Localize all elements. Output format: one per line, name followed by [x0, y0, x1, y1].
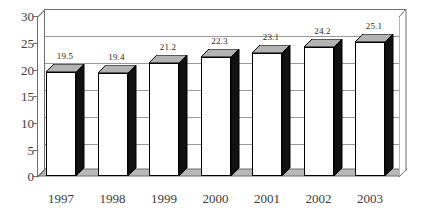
x-label-2002: 2002 — [297, 192, 341, 205]
value-label-1999: 21.2 — [148, 43, 188, 52]
bar-front-face — [46, 72, 76, 176]
x-label-1997: 1997 — [39, 192, 83, 205]
bar-side-face — [385, 34, 394, 176]
value-label-1997: 19.5 — [45, 52, 85, 61]
bar-front-face — [149, 63, 179, 176]
value-label-2003: 25.1 — [354, 22, 394, 31]
bar-2000 — [201, 49, 239, 176]
bar-2001 — [252, 45, 290, 176]
bar-side-face — [179, 55, 188, 176]
bar-front-face — [304, 47, 334, 176]
x-label-1999: 1999 — [142, 192, 186, 205]
value-label-2001: 23.1 — [251, 33, 291, 42]
bar-front-face — [201, 57, 231, 176]
value-label-1998: 19.4 — [97, 53, 137, 62]
bar-2002 — [304, 39, 342, 176]
bar-1998 — [98, 65, 136, 176]
bar-side-face — [334, 39, 343, 176]
x-label-2000: 2000 — [194, 192, 238, 205]
bar-1999 — [149, 55, 187, 176]
x-axis-labels: 1997199819992000200120022003 — [0, 192, 425, 214]
x-label-2003: 2003 — [348, 192, 392, 205]
x-label-1998: 1998 — [91, 192, 135, 205]
value-label-2002: 24.2 — [303, 27, 343, 36]
bar-front-face — [355, 42, 385, 176]
x-label-2001: 2001 — [245, 192, 289, 205]
bar-side-face — [231, 49, 240, 176]
bar-chart: 30 25 20 15 10 5 0 19.519.421.222.323.12… — [0, 0, 425, 220]
bar-series: 19.519.421.222.323.124.225.1 — [0, 0, 425, 220]
bar-side-face — [128, 65, 137, 176]
bar-side-face — [76, 64, 85, 176]
bar-2003 — [355, 34, 393, 176]
bar-front-face — [252, 53, 282, 176]
bar-1997 — [46, 64, 84, 176]
bar-front-face — [98, 73, 128, 176]
value-label-2000: 22.3 — [200, 37, 240, 46]
bar-side-face — [282, 45, 291, 176]
